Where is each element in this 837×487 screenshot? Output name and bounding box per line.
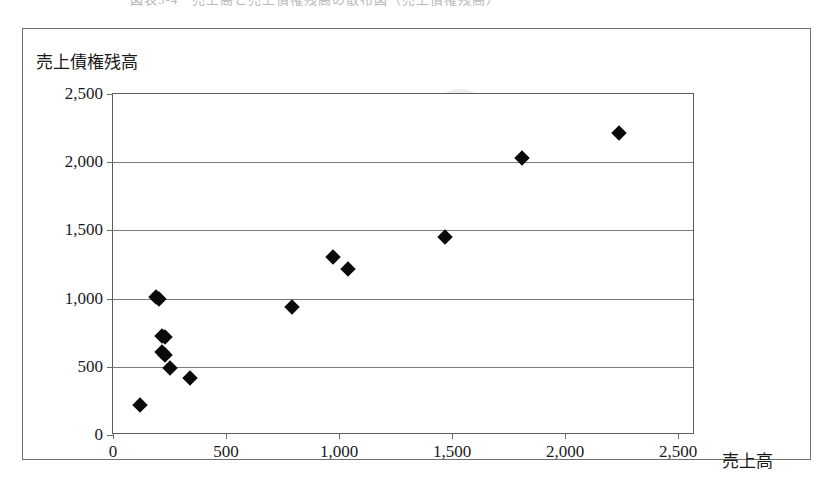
x-tick-label: 1,500 [433,442,471,462]
gridline-y-1000 [113,299,693,300]
x-tick-label: 2,500 [659,442,697,462]
gridline-y-1500 [113,230,693,231]
x-tick-label: 1,000 [320,442,358,462]
data-point [284,299,300,315]
figure-caption-text: 図表3-4 売上高と売上債権残高の散布図（売上債権残高） [130,0,500,8]
y-axis-title: 売上債権残高 [36,48,138,73]
x-tick-label: 0 [109,442,118,462]
x-axis-title: 売上高 [722,447,773,472]
y-tick-500 [107,367,113,368]
gridline-y-500 [113,367,693,368]
data-point [437,229,453,245]
x-tick-label: 500 [213,442,239,462]
gridline-y-2000 [113,162,693,163]
x-tick-0 [113,433,114,439]
data-point [340,261,356,277]
data-point [326,249,342,265]
x-tick-label: 2,000 [546,442,584,462]
y-tick-2500 [107,94,113,95]
data-point [612,125,628,141]
y-tick-label: 500 [78,357,104,377]
y-tick-label: 1,000 [65,289,103,309]
x-tick-1000 [339,433,340,439]
data-point [182,370,198,386]
y-tick-1500 [107,230,113,231]
y-tick-label: 2,000 [65,152,103,172]
data-point [132,397,148,413]
data-point [514,150,530,166]
y-tick-1000 [107,299,113,300]
y-tick-label: 0 [95,425,104,445]
y-tick-label: 1,500 [65,220,103,240]
figure-caption-strip: 図表3-4 売上高と売上債権残高の散布図（売上債権残高） [0,0,837,9]
x-tick-2500 [678,433,679,439]
scatter-plot-area: 05001,0001,5002,0002,50005001,0001,5002,… [112,93,694,434]
y-tick-label: 2,500 [65,84,103,104]
y-tick-2000 [107,162,113,163]
x-tick-2000 [565,433,566,439]
x-tick-500 [226,433,227,439]
x-tick-1500 [452,433,453,439]
